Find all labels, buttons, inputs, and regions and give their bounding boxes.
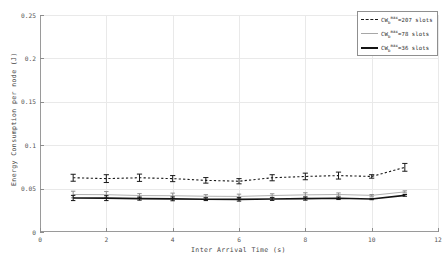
- legend-item-0: CWbmax=207 slots: [361, 13, 433, 26]
- legend-swatch-thick-icon: [361, 44, 378, 51]
- legend-item-1: CWbmax=78 slots: [361, 27, 429, 40]
- y-axis-label: Energy Consumption per node (J): [10, 52, 18, 186]
- legend: CWbmax=207 slots CWbmax=78 slots CWbmax=…: [357, 11, 438, 56]
- x-axis-label: Inter Arrival Time (s): [191, 246, 286, 254]
- legend-item-2: CWbmax=36 slots: [361, 41, 429, 54]
- legend-label-0: CWbmax=207 slots: [381, 15, 433, 25]
- legend-swatch-dashed-icon: [361, 16, 378, 23]
- legend-swatch-thin-icon: [361, 30, 378, 37]
- legend-label-2: CWbmax=36 slots: [381, 43, 429, 53]
- series-0: [71, 163, 408, 183]
- energy-consumption-chart: 00.050.10.150.20.25 024681012 Inter Arri…: [0, 0, 443, 257]
- legend-label-1: CWbmax=78 slots: [381, 29, 429, 39]
